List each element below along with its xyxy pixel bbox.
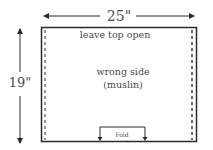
top-open-note: leave top open: [80, 30, 151, 40]
wrong-side-label: wrong side: [96, 67, 149, 77]
width-label: 25": [107, 9, 131, 23]
muslin-label: (muslin): [103, 80, 143, 90]
height-label: 19": [9, 76, 32, 89]
fold-label: Fold: [115, 132, 128, 138]
